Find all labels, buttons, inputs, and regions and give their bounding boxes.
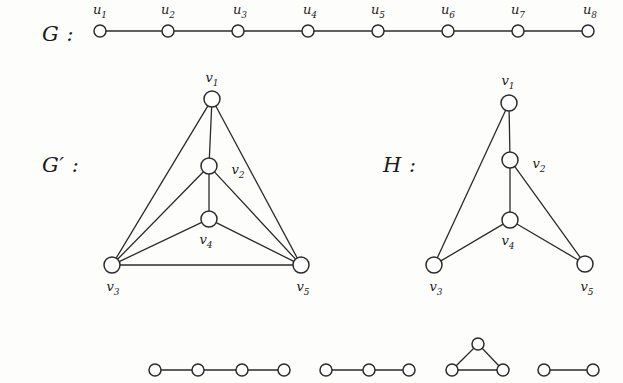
vertex-H-v1: [501, 95, 517, 111]
vertex-H-v2: [502, 152, 518, 168]
edge-Gprime-v1-v5: [216, 106, 297, 258]
vertex-Gprime-v3: [104, 257, 120, 273]
graph-name-label-H: H :: [383, 153, 417, 177]
vertex-p4-a1: [149, 364, 161, 376]
vertex-k2-d1: [538, 364, 550, 376]
vertex-Gprime-v4: [201, 211, 217, 227]
graph-edges-and-nodes: [0, 0, 623, 383]
vertex-label-H-v3: v3: [429, 279, 442, 297]
vertex-label-H-v4: v4: [501, 233, 514, 251]
vertex-Gprime-v5: [293, 257, 309, 273]
edge-Gprime-v1-v2: [209, 107, 211, 158]
graph-name-label-G: G :: [42, 22, 74, 46]
vertex-H-v4: [502, 212, 518, 228]
vertex-label-Gprime-v4: v4: [199, 232, 212, 250]
vertex-label-G-u3: u3: [233, 2, 247, 20]
vertex-G-u5: [372, 25, 384, 37]
vertex-k3-c2: [446, 364, 458, 376]
edge-k3-c1-c3: [482, 348, 499, 365]
vertex-label-H-v2: v2: [532, 156, 545, 174]
vertex-label-Gprime-v3: v3: [106, 279, 119, 297]
vertex-Gprime-v1: [204, 91, 220, 107]
edge-Gprime-v4-v5: [216, 223, 294, 262]
graph-name-label-Gprime: G′ :: [42, 153, 79, 177]
vertex-label-G-u7: u7: [511, 2, 525, 20]
vertex-p3-b2: [363, 364, 375, 376]
vertex-G-u6: [442, 25, 454, 37]
vertex-H-v3: [426, 257, 442, 273]
vertex-G-u7: [512, 25, 524, 37]
edge-H-v2-v5: [515, 166, 581, 257]
vertex-k2-d2: [587, 364, 599, 376]
vertex-p3-b1: [320, 364, 332, 376]
vertex-k3-c1: [472, 338, 484, 350]
vertex-G-u4: [302, 25, 314, 37]
edge-Gprime-v2-v5: [214, 172, 295, 259]
vertex-p3-b3: [403, 364, 415, 376]
edges-group: [106, 31, 587, 370]
edge-H-v1-v2: [509, 111, 510, 152]
vertex-label-Gprime-v2: v2: [231, 162, 244, 180]
vertex-label-G-u4: u4: [303, 2, 317, 20]
vertex-G-u8: [582, 25, 594, 37]
vertex-label-H-v1: v1: [501, 73, 514, 91]
edge-H-v1-v3: [437, 110, 505, 257]
vertex-H-v5: [577, 256, 593, 272]
edge-Gprime-v4-v3: [119, 222, 202, 261]
edge-k3-c1-c2: [456, 348, 474, 366]
vertex-label-G-u8: u8: [583, 2, 597, 20]
vertex-label-G-u6: u6: [441, 2, 455, 20]
vertex-label-G-u5: u5: [371, 2, 385, 20]
vertex-G-u3: [232, 25, 244, 37]
vertex-G-u1: [94, 25, 106, 37]
vertex-label-G-u1: u1: [93, 2, 107, 20]
vertex-label-Gprime-v5: v5: [296, 279, 309, 297]
vertex-k3-c3: [497, 364, 509, 376]
vertex-label-G-u2: u2: [161, 2, 175, 20]
vertex-p4-a2: [192, 364, 204, 376]
nodes-group: [94, 25, 599, 376]
vertex-G-u2: [162, 25, 174, 37]
vertex-p4-a3: [236, 364, 248, 376]
vertex-p4-a4: [278, 364, 290, 376]
vertex-label-H-v5: v5: [580, 279, 593, 297]
vertex-label-Gprime-v1: v1: [205, 70, 218, 88]
vertex-Gprime-v2: [201, 158, 217, 174]
figure-canvas: u1u2u3u4u5u6u7u8G :v1v2v4v3v5G′ :v1v2v4v…: [0, 0, 623, 383]
